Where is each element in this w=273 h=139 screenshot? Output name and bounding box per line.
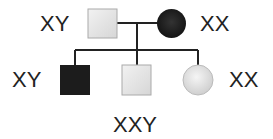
child-1-square: [60, 65, 90, 95]
father-square: [88, 9, 117, 38]
father-genotype-label: XY: [40, 13, 69, 35]
mother-circle: [157, 9, 186, 38]
mother-genotype-label: XX: [200, 13, 229, 35]
child-3-circle: [183, 65, 213, 95]
child-1-genotype-label: XY: [12, 69, 41, 91]
child-2-square: [122, 65, 151, 95]
child-2-genotype-label: XXY: [113, 114, 157, 136]
child-3-genotype-label: XX: [229, 69, 258, 91]
